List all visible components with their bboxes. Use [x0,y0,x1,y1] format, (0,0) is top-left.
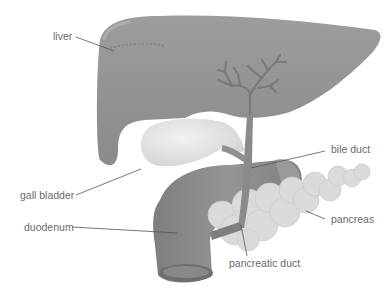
label-gall-bladder: gall bladder [20,189,74,201]
label-liver: liver [53,30,72,42]
label-pancreatic-duct: pancreatic duct [229,257,300,269]
label-pancreas: pancreas [331,213,374,225]
anatomy-diagram: liver bile duct gall bladder duodenum pa… [0,0,392,290]
gall-bladder [141,119,245,167]
label-bile-duct: bile duct [331,143,370,155]
label-duodenum: duodenum [24,221,74,233]
